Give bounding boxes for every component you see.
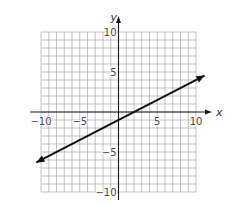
line-segment	[36, 76, 204, 163]
x-tick-label: −5	[72, 116, 87, 127]
x-tick-label: −10	[30, 116, 51, 127]
data-line	[36, 76, 204, 163]
x-axis-arrow-icon	[205, 110, 212, 115]
y-axis-label: y	[110, 11, 118, 24]
y-tick-label: −10	[95, 187, 116, 198]
x-tick-label: 5	[154, 116, 160, 127]
x-axis-label: x	[215, 106, 223, 119]
y-tick-label: 5	[110, 67, 116, 78]
x-tick-label: 10	[190, 116, 203, 127]
coordinate-plane: xy −10−5510105−5−10	[0, 0, 236, 205]
y-tick-label: −5	[102, 147, 117, 158]
y-tick-label: 10	[104, 27, 117, 38]
